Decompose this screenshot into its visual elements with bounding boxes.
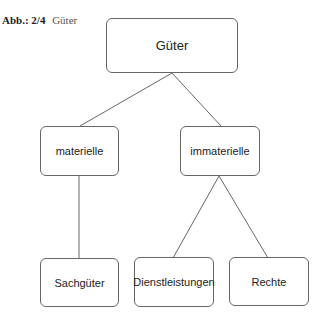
- node-label: Sachgüter: [54, 277, 104, 289]
- node-label: materielle: [56, 145, 104, 157]
- edge-gueter-materielle: [80, 73, 172, 126]
- node-label: immaterielle: [190, 145, 249, 157]
- node-label: Rechte: [252, 276, 287, 288]
- node-label: Güter: [156, 38, 189, 53]
- node-gueter: Güter: [106, 18, 238, 73]
- node-rechte: Rechte: [229, 257, 309, 306]
- node-materielle: materielle: [40, 126, 119, 176]
- node-sachgueter: Sachgüter: [40, 258, 119, 307]
- edge-gueter-immaterielle: [172, 73, 221, 126]
- node-dienstleistungen: Dienstleistungen: [134, 257, 214, 307]
- edge-immaterielle-rechte: [219, 176, 268, 258]
- node-label: Dienstleistungen: [133, 276, 214, 288]
- edge-immaterielle-dienstleistungen: [173, 176, 219, 258]
- node-immaterielle: immaterielle: [180, 126, 260, 176]
